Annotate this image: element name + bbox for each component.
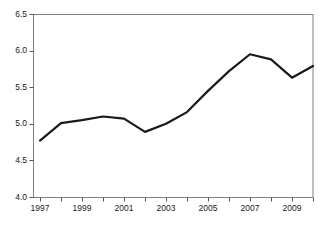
y-axis-ticks: [30, 15, 34, 198]
y-axis-tick-label: 5.5: [4, 82, 27, 92]
y-axis-tick-label: 6.5: [4, 9, 27, 19]
chart-plot-area: [0, 0, 330, 226]
y-axis-tick-label: 4.0: [4, 192, 27, 202]
y-axis-tick-label: 4.5: [4, 155, 27, 165]
x-axis-tick-label: 1999: [65, 203, 99, 213]
y-axis-tick-label: 6.0: [4, 45, 27, 55]
data-series-group: [40, 54, 313, 140]
line-chart: 6.56.05.55.04.54.0 199719992001200320052…: [0, 0, 330, 226]
x-axis-ticks: [41, 198, 314, 202]
data-line-series: [40, 54, 313, 140]
x-axis-tick-label: 2001: [107, 203, 141, 213]
x-axis-tick-label: 2005: [191, 203, 225, 213]
x-axis-tick-label: 1997: [23, 203, 57, 213]
plot-frame: [34, 15, 314, 198]
x-axis-tick-label: 2007: [233, 203, 267, 213]
x-axis-tick-label: 2003: [149, 203, 183, 213]
y-axis-tick-label: 5.0: [4, 118, 27, 128]
x-axis-tick-label: 2009: [275, 203, 309, 213]
